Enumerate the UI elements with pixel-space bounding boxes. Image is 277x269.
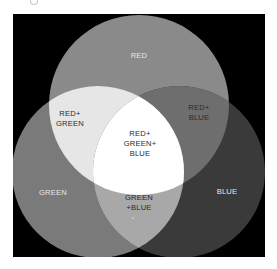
- venn-diagram: RED RED+ GREEN RED+ BLUE RED+ GREEN+ BLU…: [0, 0, 277, 269]
- label-green: GREEN: [39, 188, 67, 197]
- label-red-green-line1: RED+: [59, 109, 81, 118]
- label-red-blue-line2: BLUE: [189, 113, 210, 122]
- label-red-blue-line1: RED+: [188, 103, 210, 112]
- label-rgb-line1: RED+: [129, 129, 151, 138]
- label-rgb-line3: BLUE: [130, 149, 151, 158]
- label-blue: BLUE: [217, 187, 238, 196]
- label-red-green-line2: GREEN: [56, 119, 84, 128]
- label-rgb-line2: GREEN+: [124, 139, 157, 148]
- label-red: RED: [131, 51, 148, 60]
- label-green-blue-line1: GREEN: [125, 193, 153, 202]
- label-green-blue-line2: +BLUE: [126, 203, 151, 212]
- center-dot: [132, 217, 134, 219]
